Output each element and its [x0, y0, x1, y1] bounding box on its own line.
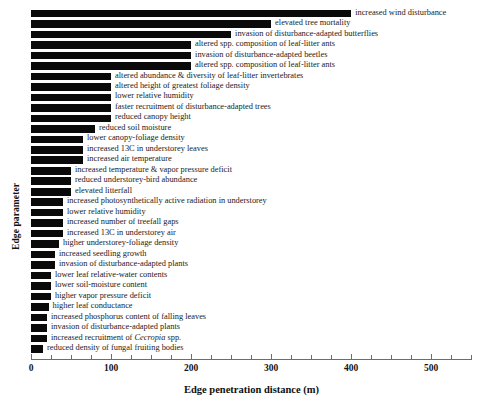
x-axis-title-label: Edge penetration distance (m) [184, 384, 319, 395]
x-axis-major-tick [271, 354, 272, 359]
bar [31, 219, 63, 227]
bar-label: increased wind disturbance [351, 8, 446, 18]
bar [31, 240, 59, 248]
bar-label: reduced density of fungal fruiting bodie… [43, 343, 184, 353]
bar-label: increased temperature & vapor pressure d… [71, 165, 232, 175]
x-axis-minor-tick [51, 355, 52, 359]
bar-label: invasion of disturbance-adapted plants [47, 322, 180, 332]
bar-label: higher understorey-foliage density [59, 238, 178, 248]
bar [31, 335, 47, 343]
y-axis-title: Edge parameter [0, 130, 14, 250]
bar [31, 272, 51, 280]
bar-label: higher leaf conductance [49, 301, 133, 311]
bar-label: elevated litterfall [71, 186, 132, 196]
bar [31, 20, 271, 28]
x-axis-major-tick [111, 354, 112, 359]
x-axis-tick-label: 200 [184, 363, 198, 373]
x-axis-major-tick [31, 354, 32, 359]
x-axis-title: Edge penetration distance (m) [0, 384, 479, 395]
bar [31, 209, 63, 217]
bar [31, 303, 49, 311]
bar-label: lower soil-moisture content [51, 280, 147, 290]
bar-row: reduced density of fungal fruiting bodie… [31, 345, 472, 355]
bar-label: elevated tree mortality [271, 18, 350, 28]
bar-label: increased seedling growth [55, 249, 146, 259]
bar-label: reduced understorey-bird abundance [71, 175, 197, 185]
bar [31, 251, 55, 259]
edge-effects-bar-chart: Edge parameter increased wind disturbanc… [0, 0, 479, 410]
bar [31, 146, 83, 154]
x-axis-minor-tick [471, 355, 472, 359]
bar-label: lower relative humidity [63, 207, 146, 217]
bar [31, 282, 51, 290]
bar-label: lower leaf relative-water contents [51, 270, 167, 280]
bar-label: altered spp. composition of leaf-litter … [191, 60, 335, 70]
x-axis-minor-tick [451, 355, 452, 359]
bar-label: lower relative humidity [111, 91, 194, 101]
bar-label: increased 13C in understorey leaves [83, 144, 208, 154]
x-axis-tick-label: 100 [104, 363, 118, 373]
x-axis-minor-tick [251, 355, 252, 359]
x-axis-tick-label: 500 [424, 363, 438, 373]
x-axis-minor-tick [71, 355, 72, 359]
x-axis-tick-label: 400 [344, 363, 358, 373]
bar [31, 177, 71, 185]
bar-label: reduced canopy height [111, 112, 191, 122]
bar [31, 125, 95, 133]
x-axis-minor-tick [91, 355, 92, 359]
bar [31, 230, 63, 238]
bar [31, 167, 71, 175]
bar-label: invasion of disturbance-adapted beetles [191, 50, 327, 60]
bar [31, 136, 83, 144]
x-axis-minor-tick [371, 355, 372, 359]
x-axis-minor-tick [131, 355, 132, 359]
x-axis-major-tick [431, 354, 432, 359]
bar-label: increased air temperature [83, 154, 172, 164]
bar [31, 345, 43, 353]
bar-row: altered height of greatest foliage densi… [31, 82, 472, 92]
x-axis-tick-label: 0 [29, 363, 34, 373]
bar-row: increased wind disturbance [31, 9, 472, 19]
x-axis-minor-tick [151, 355, 152, 359]
bar [31, 62, 191, 70]
x-axis-tick-label: 300 [264, 363, 278, 373]
bar [31, 293, 51, 301]
bar [31, 261, 55, 269]
x-axis-minor-tick [211, 355, 212, 359]
x-axis-minor-tick [171, 355, 172, 359]
y-axis-title-label: Edge parameter [11, 183, 21, 250]
bar [31, 314, 47, 322]
bar-label: faster recruitment of disturbance-adapte… [111, 102, 271, 112]
x-axis-minor-tick [391, 355, 392, 359]
bar-label: increased 13C in understorey air [63, 228, 176, 238]
bar [31, 83, 111, 91]
bar-label: higher vapor pressure deficit [51, 291, 151, 301]
bar-row: faster recruitment of disturbance-adapte… [31, 103, 472, 113]
bar [31, 324, 47, 332]
bar-label: altered abundance & diversity of leaf-li… [111, 71, 303, 81]
x-axis-major-tick [191, 354, 192, 359]
bar-label: altered spp. composition of leaf-litter … [191, 39, 335, 49]
bar-label: invasion of disturbance-adapted butterfl… [231, 29, 378, 39]
x-axis-minor-tick [411, 355, 412, 359]
bar [31, 115, 111, 123]
bar-label: invasion of disturbance-adapted plants [55, 259, 188, 269]
bar-label: increased recruitment of Cecropia spp. [47, 333, 181, 343]
bar-row: altered abundance & diversity of leaf-li… [31, 72, 472, 82]
bar-label: lower canopy-foliage density [83, 133, 185, 143]
bar [31, 188, 71, 196]
bar [31, 198, 63, 206]
bar [31, 31, 231, 39]
bar-label: altered height of greatest foliage densi… [111, 81, 250, 91]
x-axis-ticks [31, 359, 472, 360]
bar-label: increased phosphorus content of falling … [47, 312, 206, 322]
plot-area: increased wind disturbanceelevated tree … [31, 9, 472, 355]
bar [31, 156, 83, 164]
bar [31, 41, 191, 49]
bar-label: increased photosynthetically active radi… [63, 196, 267, 206]
bar-label: reduced soil moisture [95, 123, 171, 133]
bar [31, 10, 351, 18]
x-axis-minor-tick [331, 355, 332, 359]
x-axis-minor-tick [311, 355, 312, 359]
x-axis-major-tick [351, 354, 352, 359]
